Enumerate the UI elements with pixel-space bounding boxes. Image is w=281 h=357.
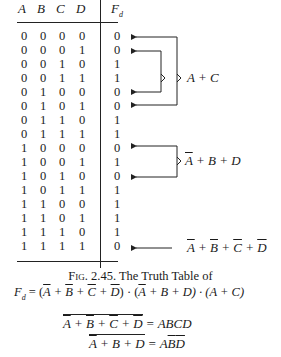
- bracket-arrows: [0, 0, 281, 357]
- figure-caption-title: Fig. 2.45. The Truth Table of: [0, 269, 281, 284]
- equation-demorgan-2: A + B + D = ABD: [89, 336, 185, 352]
- label-abar-bbar-cbar-dbar: A + B + C + D: [187, 240, 267, 256]
- equation-demorgan-1: A + B + C + D = ABCD: [63, 316, 192, 332]
- figure-caption-formula: Fd = (A + B + C + D) · (A + B + D) · (A …: [14, 285, 244, 302]
- label-a-plus-c: A + C: [187, 70, 219, 86]
- label-abar-b-d: A + B + D: [185, 153, 241, 169]
